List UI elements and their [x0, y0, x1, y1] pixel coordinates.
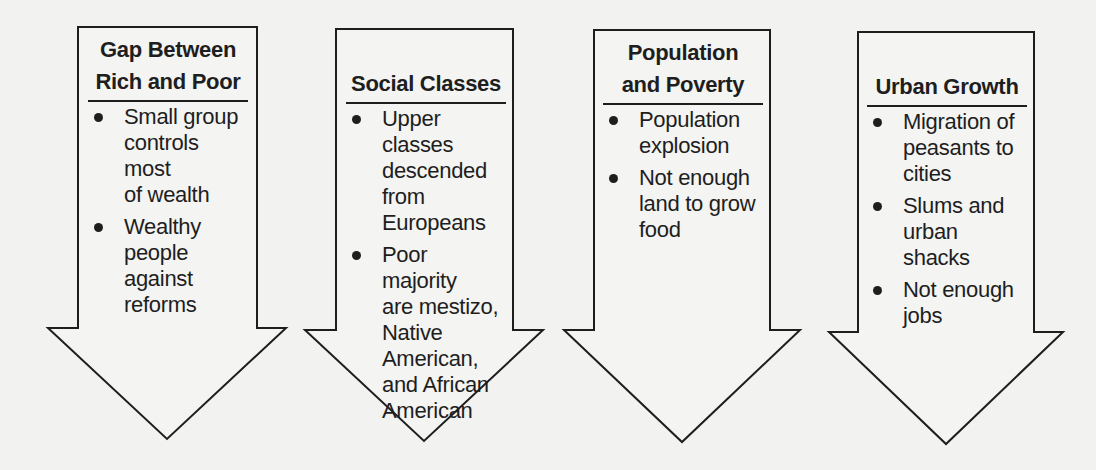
item-line: and African [382, 372, 506, 398]
item-line: Not enough [639, 165, 763, 191]
item-line: explosion [639, 133, 763, 159]
item-line: people [124, 240, 248, 266]
item-line: from [382, 184, 506, 210]
item-line: urban shacks [903, 219, 1027, 271]
heading-line: Social Classes [346, 68, 506, 100]
arrow-panel-gap-rich-poor: Gap Between Rich and Poor Small group co… [88, 34, 248, 324]
list-item: Not enough land to grow food [603, 165, 763, 243]
heading-line: Rich and Poor [88, 66, 248, 98]
list-item: Population explosion [603, 107, 763, 159]
item-line: descended [382, 158, 506, 184]
item-line: of wealth [124, 182, 248, 208]
list-item: Wealthy people against reforms [88, 214, 248, 318]
bullet-icon [352, 251, 361, 260]
item-line: controls most [124, 130, 248, 182]
list-item: Upper classes descended from Europeans [346, 106, 506, 236]
heading-line: Urban Growth [867, 71, 1027, 103]
bullet-icon [94, 113, 103, 122]
bullet-icon [873, 202, 882, 211]
bullet-list: Small group controls most of wealth Weal… [88, 104, 248, 318]
list-item: Small group controls most of wealth [88, 104, 248, 208]
list-item: Slums and urban shacks [867, 193, 1027, 271]
item-line: Small group [124, 104, 248, 130]
item-line: cities [903, 161, 1027, 187]
item-line: Poor majority [382, 242, 506, 294]
bullet-list: Population explosion Not enough land to … [603, 107, 763, 243]
item-line: land to grow [639, 191, 763, 217]
item-line: Population [639, 107, 763, 133]
item-line: Slums and [903, 193, 1027, 219]
panel-heading: Population and Poverty [603, 37, 763, 105]
item-line: Upper classes [382, 106, 506, 158]
item-line: American [382, 398, 506, 424]
bullet-list: Upper classes descended from Europeans P… [346, 106, 506, 424]
heading-line: and Poverty [603, 69, 763, 101]
item-line: Wealthy [124, 214, 248, 240]
item-line: Not enough [903, 277, 1027, 303]
bullet-icon [94, 223, 103, 232]
heading-line [346, 36, 506, 68]
panel-heading: Urban Growth [867, 39, 1027, 107]
item-line: American, [382, 346, 506, 372]
list-item: Migration of peasants to cities [867, 109, 1027, 187]
item-line: Europeans [382, 210, 506, 236]
list-item: Poor majority are mestizo, Native Americ… [346, 242, 506, 424]
heading-line: Population [603, 37, 763, 69]
bullet-icon [609, 174, 618, 183]
item-line: Migration of [903, 109, 1027, 135]
bullet-icon [873, 118, 882, 127]
arrow-panel-social-classes: Social Classes Upper classes descended f… [346, 36, 506, 430]
arrow-panel-urban-growth: Urban Growth Migration of peasants to ci… [867, 39, 1027, 335]
list-item: Not enough jobs [867, 277, 1027, 329]
item-line: reforms [124, 292, 248, 318]
panel-heading: Gap Between Rich and Poor [88, 34, 248, 102]
item-line: food [639, 217, 763, 243]
item-line: are mestizo, [382, 294, 506, 320]
bullet-icon [609, 116, 618, 125]
bullet-list: Migration of peasants to cities Slums an… [867, 109, 1027, 329]
heading-line: Gap Between [88, 34, 248, 66]
bullet-icon [352, 115, 361, 124]
item-line: peasants to [903, 135, 1027, 161]
arrow-panel-population-poverty: Population and Poverty Population explos… [603, 37, 763, 249]
item-line: jobs [903, 303, 1027, 329]
item-line: against [124, 266, 248, 292]
bullet-icon [873, 286, 882, 295]
item-line: Native [382, 320, 506, 346]
panel-heading: Social Classes [346, 36, 506, 104]
heading-line [867, 39, 1027, 71]
